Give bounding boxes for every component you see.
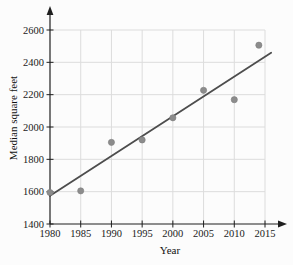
data-point: [231, 97, 237, 103]
y-axis-arrow-icon: [47, 6, 54, 15]
y-tick-label: 2200: [23, 89, 44, 100]
median-square-feet-scatter-chart: 1980198519901995200020052010201514001600…: [0, 0, 293, 265]
x-tick-label: 1985: [70, 228, 91, 239]
y-axis-title: Median square feet: [7, 76, 19, 160]
x-tick-label: 2000: [162, 228, 183, 239]
data-point: [170, 115, 176, 121]
x-tick-label: 2010: [224, 228, 245, 239]
scatter-plot-canvas: 1980198519901995200020052010201514001600…: [0, 0, 293, 265]
y-tick-label: 2600: [23, 25, 44, 36]
y-tick-label: 1600: [23, 186, 44, 197]
data-point: [47, 189, 53, 195]
y-tick-label: 2400: [23, 57, 44, 68]
data-point: [139, 137, 145, 143]
x-axis-title: Year: [160, 244, 180, 256]
x-tick-label: 2005: [193, 228, 214, 239]
data-point: [200, 87, 206, 93]
y-tick-label: 1800: [23, 154, 44, 165]
x-tick-label: 1980: [40, 228, 61, 239]
data-point: [108, 139, 114, 145]
x-tick-label: 1990: [101, 228, 122, 239]
data-point: [256, 42, 262, 48]
y-tick-label: 2000: [23, 122, 44, 133]
x-tick-label: 2015: [255, 228, 276, 239]
x-tick-label: 1995: [132, 228, 153, 239]
trend-line: [50, 53, 271, 196]
y-tick-label: 1400: [23, 219, 44, 230]
data-point: [78, 188, 84, 194]
x-axis-arrow-icon: [278, 221, 287, 228]
